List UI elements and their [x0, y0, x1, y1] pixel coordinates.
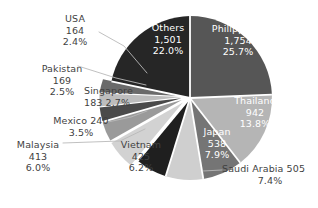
slice-label-philippines-percent: 25.7% [202, 46, 274, 58]
slice-label-japan: Japan 538 7.9% [196, 126, 238, 161]
slice-label-usa-value: 164 [47, 25, 103, 37]
slice-label-vietnam: Vietnam 425 6.2% [110, 139, 172, 174]
slice-label-usa-percent: 2.4% [47, 36, 103, 48]
slice-label-usa-name: USA [47, 13, 103, 25]
slice-label-malaysia-name: Malaysia [6, 139, 70, 151]
slice-label-pakistan-name: Pakistan [30, 63, 94, 75]
slice-label-others-percent: 22.0% [138, 45, 198, 57]
slice-label-malaysia-value: 413 [6, 151, 70, 163]
slice-label-thailand: Thailand 942 13.8% [224, 95, 286, 130]
slice-label-vietnam-percent: 6.2% [110, 162, 172, 174]
slice-label-thailand-value: 942 [224, 107, 286, 119]
slice-label-others: Others 1,501 22.0% [138, 22, 198, 57]
slice-label-thailand-name: Thailand [224, 95, 286, 107]
slice-label-saudi-arabia-percent: 7.4% [222, 175, 318, 187]
slice-label-vietnam-name: Vietnam [110, 139, 172, 151]
slice-label-singapore-value-percent: 183 2.7% [84, 97, 162, 109]
slice-label-malaysia-percent: 6.0% [6, 162, 70, 174]
pie-chart: USA 164 2.4% Pakistan 169 2.5% Singapore… [0, 0, 318, 208]
slice-label-singapore-name: Singapore [84, 85, 162, 97]
slice-label-others-value: 1,501 [138, 34, 198, 46]
slice-label-japan-name: Japan [196, 126, 238, 138]
slice-label-saudi-arabia-name-value: Saudi Arabia 505 [222, 163, 318, 175]
slice-label-mexico-percent: 3.5% [40, 127, 122, 139]
slice-label-saudi-arabia: Saudi Arabia 505 7.4% [222, 163, 318, 186]
slice-label-others-name: Others [138, 22, 198, 34]
slice-label-mexico-name-value: Mexico 240 [40, 115, 122, 127]
slice-label-japan-value: 538 [196, 138, 238, 150]
slice-label-singapore: Singapore 183 2.7% [84, 85, 162, 108]
slice-label-mexico: Mexico 240 3.5% [40, 115, 122, 138]
slice-label-japan-percent: 7.9% [196, 149, 238, 161]
slice-label-vietnam-value: 425 [110, 151, 172, 163]
slice-label-philippines: Philippines 1,754 25.7% [202, 23, 274, 58]
slice-label-malaysia: Malaysia 413 6.0% [6, 139, 70, 174]
slice-label-usa: USA 164 2.4% [47, 13, 103, 48]
slice-label-philippines-name: Philippines [202, 23, 274, 35]
slice-label-philippines-value: 1,754 [202, 35, 274, 47]
